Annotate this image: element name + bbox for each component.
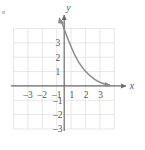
- y-tick-label-neg3: –3: [52, 124, 63, 134]
- y-tick-label-2: 2: [55, 53, 60, 63]
- y-axis-label: y: [65, 2, 71, 13]
- x-tick-label-neg3: –3: [22, 90, 33, 100]
- y-tick-label-neg2: –2: [52, 110, 63, 120]
- y-tick-label-neg1: –1: [52, 96, 63, 106]
- x-tick-label-1: 1: [69, 90, 74, 100]
- y-tick-label-3: 3: [55, 38, 60, 48]
- curve-left-arrowhead: [58, 17, 64, 24]
- x-axis-label: x: [129, 80, 135, 91]
- coordinate-plot: x y –3 –2 –1 1 2 3 3 2 1 –1 –2 –3: [0, 0, 145, 150]
- exponential-graph-figure: x y –3 –2 –1 1 2 3 3 2 1 –1 –2 –3: [0, 0, 145, 150]
- x-tick-label-neg2: –2: [37, 90, 48, 100]
- x-tick-label-2: 2: [84, 90, 89, 100]
- x-tick-label-3: 3: [98, 90, 103, 100]
- y-tick-label-1: 1: [55, 67, 60, 77]
